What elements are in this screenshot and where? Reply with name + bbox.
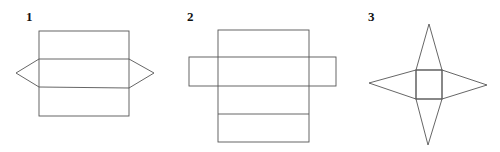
figure-label: 2	[187, 9, 194, 24]
rectangle-band	[189, 57, 336, 86]
figures-canvas: 1 2 3	[0, 0, 500, 152]
triangle-face	[442, 70, 487, 99]
triangle-face	[129, 59, 154, 88]
triangle-face	[416, 24, 442, 70]
figure-label: 1	[26, 9, 33, 24]
rectangle-face	[39, 31, 129, 116]
figure-label: 3	[368, 9, 375, 24]
figure-1: 1	[16, 9, 154, 116]
square-base	[416, 70, 442, 99]
figure-3: 3	[368, 9, 487, 145]
triangle-face	[369, 70, 416, 99]
fold-line	[39, 87, 129, 88]
figure-2: 2	[187, 9, 336, 142]
triangle-face	[416, 99, 442, 145]
triangle-face	[16, 59, 39, 87]
